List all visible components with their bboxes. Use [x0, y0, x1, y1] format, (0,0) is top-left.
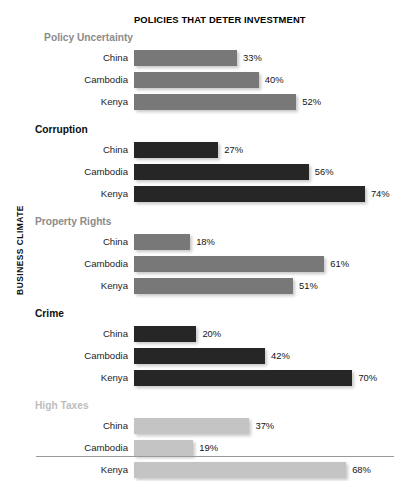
bar: [134, 94, 296, 110]
bar-category-label: China: [0, 47, 128, 69]
bar-row: Kenya52%: [0, 91, 412, 113]
group-spacer: [0, 205, 412, 212]
chart-title: POLICIES THAT DETER INVESTMENT: [134, 14, 306, 25]
bar-group-policy-uncertainty: Policy UncertaintyChina33%Cambodia40%Ken…: [0, 28, 412, 113]
bar: [134, 348, 265, 364]
bar-group-property-rights: Property RightsChina18%Cambodia61%Kenya5…: [0, 212, 412, 297]
bar-category-label: Cambodia: [0, 161, 128, 183]
bar-row: Cambodia56%: [0, 161, 412, 183]
bar-category-label: Kenya: [0, 459, 128, 481]
bar-track: 74%: [134, 183, 408, 205]
bar-value-label: 40%: [265, 69, 284, 91]
bar-category-label: China: [0, 323, 128, 345]
bar-group-corruption: CorruptionChina27%Cambodia56%Kenya74%: [0, 120, 412, 205]
bar-row: Cambodia40%: [0, 69, 412, 91]
group-spacer: [0, 389, 412, 396]
bar-track: 56%: [134, 161, 408, 183]
bar-group-high-taxes: High TaxesChina37%Cambodia19%Kenya68%: [0, 396, 412, 481]
bar-group-header: Corruption: [0, 120, 412, 139]
bar-track: 42%: [134, 345, 408, 367]
bar-row: Kenya70%: [0, 367, 412, 389]
bar-row: China37%: [0, 415, 412, 437]
bar-group-title: High Taxes: [35, 396, 89, 415]
bar-row: Kenya74%: [0, 183, 412, 205]
bar-row: Kenya51%: [0, 275, 412, 297]
bar-value-label: 20%: [202, 323, 221, 345]
bar-track: 33%: [134, 47, 408, 69]
bar-category-label: China: [0, 415, 128, 437]
bar-track: 61%: [134, 253, 408, 275]
bar: [134, 440, 193, 456]
bar-group-header: Property Rights: [0, 212, 412, 231]
bar-value-label: 74%: [371, 183, 390, 205]
bar: [134, 370, 352, 386]
bar-track: 51%: [134, 275, 408, 297]
bar-row: China18%: [0, 231, 412, 253]
bar-row: Kenya68%: [0, 459, 412, 481]
bar-row: China27%: [0, 139, 412, 161]
bar-track: 18%: [134, 231, 408, 253]
bar-row: Cambodia42%: [0, 345, 412, 367]
bar-track: 68%: [134, 459, 408, 481]
bar-group-title: Crime: [35, 304, 64, 323]
bar-value-label: 18%: [196, 231, 215, 253]
bar: [134, 72, 259, 88]
bar-category-label: Kenya: [0, 367, 128, 389]
group-spacer: [0, 297, 412, 304]
bar: [134, 326, 196, 342]
bar-value-label: 56%: [315, 161, 334, 183]
bar: [134, 142, 218, 158]
bar-group-title: Policy Uncertainty: [44, 28, 133, 47]
bar-track: 37%: [134, 415, 408, 437]
bar-value-label: 61%: [330, 253, 349, 275]
bar-category-label: Cambodia: [0, 253, 128, 275]
bar-value-label: 27%: [224, 139, 243, 161]
bar: [134, 256, 324, 272]
bar-track: 40%: [134, 69, 408, 91]
bar: [134, 164, 309, 180]
bar-group-header: High Taxes: [0, 396, 412, 415]
bar: [134, 50, 237, 66]
bar-row: China33%: [0, 47, 412, 69]
bar-category-label: Cambodia: [0, 69, 128, 91]
bar: [134, 186, 365, 202]
bar-track: 70%: [134, 367, 408, 389]
bar-category-label: Kenya: [0, 183, 128, 205]
bar-category-label: Cambodia: [0, 345, 128, 367]
footer-divider: [36, 456, 394, 457]
bar-category-label: Kenya: [0, 91, 128, 113]
bar-value-label: 33%: [243, 47, 262, 69]
bar: [134, 278, 293, 294]
bar-category-label: China: [0, 139, 128, 161]
plot-area: Policy UncertaintyChina33%Cambodia40%Ken…: [0, 28, 412, 448]
bar-track: 20%: [134, 323, 408, 345]
bar-group-title: Property Rights: [35, 212, 111, 231]
bar: [134, 234, 190, 250]
bar-value-label: 68%: [352, 459, 371, 481]
bar: [134, 418, 249, 434]
bar-value-label: 70%: [358, 367, 377, 389]
bar-value-label: 42%: [271, 345, 290, 367]
bar-value-label: 51%: [299, 275, 318, 297]
group-spacer: [0, 113, 412, 120]
bar-category-label: China: [0, 231, 128, 253]
bar-row: China20%: [0, 323, 412, 345]
bar-group-header: Policy Uncertainty: [0, 28, 412, 47]
bar-group-title: Corruption: [35, 120, 88, 139]
bar-category-label: Kenya: [0, 275, 128, 297]
bar-group-header: Crime: [0, 304, 412, 323]
bar: [134, 462, 346, 478]
bar-row: Cambodia61%: [0, 253, 412, 275]
bar-value-label: 37%: [255, 415, 274, 437]
bar-track: 27%: [134, 139, 408, 161]
bar-track: 52%: [134, 91, 408, 113]
bar-value-label: 52%: [302, 91, 321, 113]
bar-group-crime: CrimeChina20%Cambodia42%Kenya70%: [0, 304, 412, 389]
